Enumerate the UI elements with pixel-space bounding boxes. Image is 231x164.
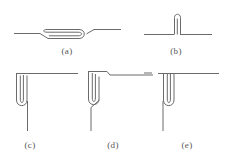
subfigure-b-loop-top-bend xyxy=(175,14,181,17)
subfigure-a-geometry xyxy=(14,30,121,39)
subfigure-e-geometry xyxy=(144,73,219,131)
subfigure-b-geometry xyxy=(144,14,212,34)
subfigure-a-right-ramp xyxy=(87,30,95,34)
figure-label-b: (b) xyxy=(170,46,181,56)
figure-label-d: (d) xyxy=(107,140,118,150)
subfigure-c-geometry xyxy=(16,74,78,132)
figure-label-e: (e) xyxy=(182,140,193,150)
figure-label-c: (c) xyxy=(25,140,36,150)
subfigure-d-geometry xyxy=(88,72,153,132)
subfigure-a-left-ramp xyxy=(40,34,48,39)
subfigure-a-fold-nose-inner xyxy=(78,32,82,36)
subfigure-d-inner-bottom-bend xyxy=(92,98,95,102)
subfigure-c-inner-bottom-bend xyxy=(20,99,23,103)
subfigure-d-step-diagonal-top xyxy=(107,72,110,76)
subfigure-a-fold-left-nose xyxy=(44,30,47,33)
subfigure-e-inner-bottom-bend xyxy=(167,99,170,103)
figure-label-a: (a) xyxy=(62,46,73,56)
drawing-strokes xyxy=(14,14,219,131)
